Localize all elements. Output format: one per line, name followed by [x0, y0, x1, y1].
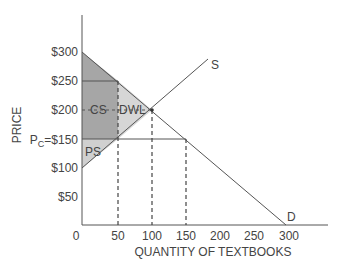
x-tick-300: 300: [279, 229, 299, 243]
price-ceiling-label: PC=$150: [30, 133, 79, 149]
price-ceiling-diagram: $300 $250 $200 $100 $50 PC=$150 PRICE 0 …: [0, 0, 339, 269]
equilibrium-point: [150, 108, 154, 112]
demand-label: D: [287, 210, 296, 224]
x-tick-200: 200: [210, 229, 230, 243]
y-tick-200: $200: [51, 103, 78, 117]
x-axis-label: QUANTITY OF TEXTBOOKS: [135, 245, 292, 259]
y-tick-300: $300: [51, 45, 78, 59]
x-tick-50: 50: [111, 229, 125, 243]
x-tick-250: 250: [244, 229, 264, 243]
dwl-label: DWL: [119, 103, 146, 117]
x-tick-150: 150: [176, 229, 196, 243]
consumer-surplus-region: [82, 52, 118, 139]
x-tick-100: 100: [142, 229, 162, 243]
y-tick-50: $50: [58, 190, 78, 204]
x-tick-0: 0: [73, 229, 80, 243]
y-axis-label: PRICE: [10, 107, 24, 144]
supply-label: S: [211, 58, 219, 72]
cs-label: CS: [90, 103, 107, 117]
ps-label: PS: [85, 145, 101, 159]
y-tick-100: $100: [51, 161, 78, 175]
y-tick-250: $250: [51, 74, 78, 88]
